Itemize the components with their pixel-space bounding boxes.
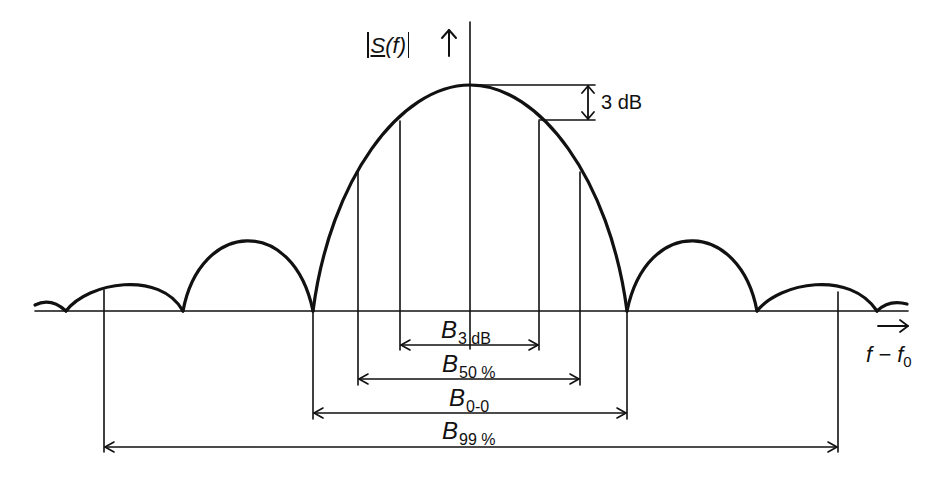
magnitude-argument: (f) xyxy=(385,33,406,58)
3db-annotation: 3 dB xyxy=(601,92,642,112)
x-axis-label: f − f0 xyxy=(866,344,912,369)
3db-double-arrow-icon xyxy=(582,86,594,119)
b00-symbol: B xyxy=(449,384,465,411)
y-axis-arrow-icon xyxy=(442,30,456,56)
b00-subscript: 0-0 xyxy=(466,398,489,415)
y-axis-label: S(f) xyxy=(365,32,411,58)
magnitude-symbol: S xyxy=(371,33,386,58)
b99-label: B99 % xyxy=(442,419,495,443)
b00-label: B0-0 xyxy=(449,386,489,410)
b50-label: B50 % xyxy=(442,352,495,376)
spectrum-curve xyxy=(35,85,907,311)
spectrum-diagram: S(f) 3 dB f − f0 B3 dB B50 % B0-0 B99 % xyxy=(0,0,950,480)
x-axis-arrow-icon xyxy=(878,320,908,332)
abs-bar-left xyxy=(367,32,369,58)
x-axis-subscript: 0 xyxy=(903,353,911,370)
b3db-label: B3 dB xyxy=(441,318,491,342)
abs-bar-right xyxy=(408,32,410,58)
b99-symbol: B xyxy=(442,417,458,444)
b3db-symbol: B xyxy=(441,316,457,343)
b3db-subscript: 3 dB xyxy=(458,330,491,347)
x-axis-variable: f − f xyxy=(866,342,903,367)
b50-subscript: 50 % xyxy=(459,364,495,381)
b50-symbol: B xyxy=(442,350,458,377)
b99-subscript: 99 % xyxy=(459,431,495,448)
